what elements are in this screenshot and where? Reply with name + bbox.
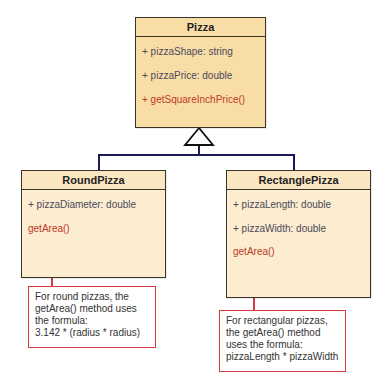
attribute-pizza-shape: + pizzaShape: string: [136, 46, 233, 57]
note-line: the getArea() method: [226, 327, 339, 339]
note-line: the formula:: [35, 315, 149, 327]
inheritance-line: [99, 155, 294, 170]
method-get-area: getArea(): [22, 223, 70, 234]
class-round-pizza[interactable]: RoundPizza + pizzaDiameter: double getAr…: [21, 170, 166, 278]
note-line: For rectangular pizzas,: [226, 315, 339, 327]
note-line: For round pizzas, the: [35, 291, 149, 303]
generalization-triangle-icon: [185, 128, 213, 145]
class-title: RoundPizza: [22, 171, 165, 190]
class-pizza[interactable]: Pizza + pizzaShape: string + pizzaPrice:…: [135, 17, 266, 128]
class-title: Pizza: [136, 18, 265, 37]
note-round-pizza: For round pizzas, the getArea() method u…: [28, 286, 156, 348]
class-title: RectanglePizza: [227, 171, 370, 190]
note-line: getArea() method uses: [35, 303, 149, 315]
method-get-square-inch-price: + getSquareInchPrice(): [136, 94, 245, 105]
class-rectangle-pizza[interactable]: RectanglePizza + pizzaLength: double + p…: [226, 170, 371, 298]
attribute-pizza-diameter: + pizzaDiameter: double: [22, 199, 136, 210]
note-line: 3.142 * (radius * radius): [35, 327, 149, 339]
method-get-area: getArea(): [227, 246, 275, 257]
attribute-pizza-width: + pizzaWidth: double: [227, 223, 326, 234]
note-rectangle-pizza: For rectangular pizzas, the getArea() me…: [219, 310, 346, 372]
attribute-pizza-length: + pizzaLength: double: [227, 199, 331, 210]
note-line: pizzaLength * pizzaWidth: [226, 351, 339, 363]
attribute-pizza-price: + pizzaPrice: double: [136, 70, 232, 81]
note-line: uses the formula:: [226, 339, 339, 351]
